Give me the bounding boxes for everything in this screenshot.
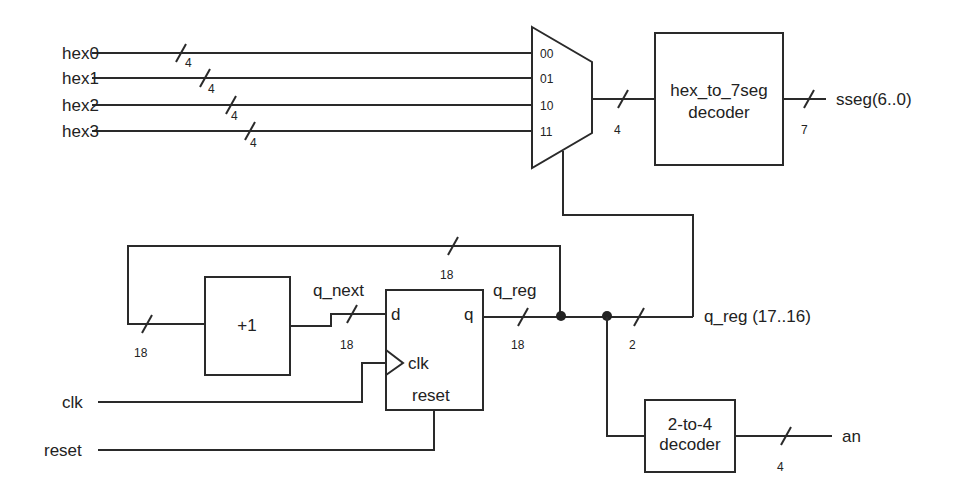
q-next-label: q_next <box>313 281 364 300</box>
reset-label: reset <box>44 441 82 460</box>
hex3-label: hex3 <box>62 122 99 141</box>
q-reg-width: 18 <box>511 338 525 352</box>
hex0-label: hex0 <box>62 44 99 63</box>
hex3-width: 4 <box>250 136 257 150</box>
hex1-label: hex1 <box>62 69 99 88</box>
sseg-width: 7 <box>801 123 808 137</box>
hex-decoder-line2: decoder <box>688 103 750 122</box>
incrementer-label: +1 <box>237 316 256 335</box>
circuit-diagram: hex0 hex1 hex2 hex3 4 4 4 4 00 01 10 11 … <box>0 0 959 498</box>
register-clk-label: clk <box>408 354 429 373</box>
mux-sel-01: 01 <box>540 72 554 86</box>
register-q-label: q <box>464 305 473 324</box>
sseg-label: sseg(6..0) <box>836 90 912 109</box>
register-d-label: d <box>391 305 400 324</box>
an-label: an <box>842 427 861 446</box>
hex-input-wires <box>92 44 532 140</box>
mux-sel-11: 11 <box>540 125 553 139</box>
hex-decoder-line1: hex_to_7seg <box>670 81 767 100</box>
mux-sel-10: 10 <box>540 99 554 113</box>
decoder-input-wire <box>607 317 645 436</box>
hex1-width: 4 <box>208 82 215 96</box>
clk-label: clk <box>62 393 83 412</box>
q-reg-label: q_reg <box>493 281 536 300</box>
junction-dot <box>556 311 566 321</box>
an-decoder-line2: decoder <box>659 435 721 454</box>
reset-wire <box>98 410 434 450</box>
mux-select-wire <box>563 151 693 317</box>
q-next-wire <box>290 314 386 326</box>
hex2-label: hex2 <box>62 96 99 115</box>
select-bus-label: q_reg (17..16) <box>704 307 811 326</box>
register-reset-label: reset <box>412 386 450 405</box>
an-width: 4 <box>777 460 784 474</box>
hex2-width: 4 <box>231 109 238 123</box>
hex0-width: 4 <box>185 56 192 70</box>
q-next-width: 18 <box>340 338 354 352</box>
an-decoder-line1: 2-to-4 <box>668 415 712 434</box>
incrementer-input-width: 18 <box>134 346 148 360</box>
feedback-width: 18 <box>440 268 454 282</box>
select-bus-width: 2 <box>629 338 636 352</box>
mux-sel-00: 00 <box>540 47 554 61</box>
mux-output-width: 4 <box>614 123 621 137</box>
